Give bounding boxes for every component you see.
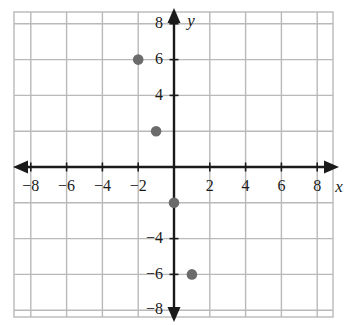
x-tick-label: −4 [94,177,111,194]
y-tick-label: −8 [146,300,163,317]
data-point: (−1, 2) [151,126,162,137]
data-point: (1, −6) [187,269,198,280]
x-axis-arrow-right [324,161,339,174]
x-tick-label: −2 [130,177,147,194]
y-tick-label: 6 [155,50,163,67]
x-tick-label: −6 [58,177,75,194]
data-point: (−2, 6) [133,54,144,65]
y-axis-arrow-down [168,307,181,322]
y-tick-label: 4 [155,86,163,103]
x-tick-label: 4 [242,177,250,194]
x-tick-label: −8 [22,177,39,194]
x-tick-label: 8 [313,177,321,194]
data-point: (0, −2) [169,198,180,209]
y-tick-label: −6 [146,265,163,282]
y-tick-label: 8 [155,14,163,31]
x-axis-arrow-left [13,161,28,174]
coordinate-plane-graph: −8−6−4−22468864−4−6−8 xy (−2, 6)(−1, 2)(… [0,0,347,325]
x-axis-name-label: x [334,177,343,196]
y-axis-arrow-up [168,8,181,23]
y-tick-label: −4 [146,229,163,246]
coordinate-plane-svg: −8−6−4−22468864−4−6−8 xy (−2, 6)(−1, 2)(… [0,0,347,325]
y-axis-name-label: y [185,11,195,30]
x-tick-label: 6 [277,177,285,194]
x-tick-label: 2 [206,177,214,194]
